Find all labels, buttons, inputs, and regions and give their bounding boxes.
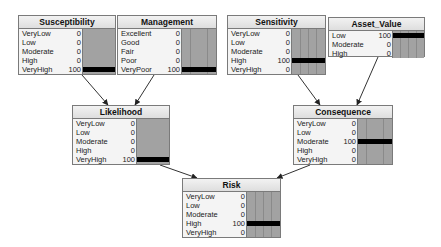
state-value: 100	[375, 31, 392, 40]
node-management[interactable]: Management Excellent 0 Good 0 Fair 0 Poo…	[117, 15, 217, 75]
state-label: Low	[19, 38, 65, 47]
state-value: 0	[229, 210, 246, 219]
state-value: 0	[274, 65, 291, 74]
state-row-high[interactable]: High 100	[183, 219, 280, 228]
state-label: Excellent	[118, 29, 164, 38]
state-row-low[interactable]: Low 100	[329, 31, 424, 40]
state-label: VeryHigh	[294, 155, 340, 164]
state-row-low[interactable]: Low 0	[19, 38, 115, 47]
state-label: VeryLow	[228, 29, 274, 38]
state-value: 0	[119, 128, 136, 137]
state-value: 0	[375, 40, 392, 49]
state-row-moderate[interactable]: Moderate 0	[228, 47, 325, 56]
state-value: 100	[229, 219, 246, 228]
state-row-low[interactable]: Low 0	[228, 38, 325, 47]
node-title: Consequence	[294, 106, 392, 119]
state-row-veryhigh[interactable]: VeryHigh 0	[294, 155, 392, 164]
state-row-high[interactable]: High 100	[228, 56, 325, 65]
state-row-verylow[interactable]: VeryLow 0	[294, 119, 392, 128]
state-value: 100	[65, 65, 82, 74]
state-label: High	[294, 146, 340, 155]
state-row-high[interactable]: High 0	[294, 146, 392, 155]
probability-bar	[291, 38, 325, 47]
state-label: Good	[118, 38, 164, 47]
edge-asset_value-to-consequence	[357, 57, 378, 105]
probability-bar	[136, 119, 169, 128]
state-row-low[interactable]: Low 0	[183, 201, 280, 210]
state-row-veryhigh[interactable]: VeryHigh 100	[73, 155, 169, 164]
state-value: 0	[119, 146, 136, 155]
state-row-good[interactable]: Good 0	[118, 38, 216, 47]
probability-bar	[392, 49, 424, 58]
node-states: VeryLow 0 Low 0 Moderate 0 High 0 VeryHi…	[19, 29, 115, 74]
probability-bar-fill	[247, 221, 280, 226]
state-value: 0	[65, 38, 82, 47]
state-row-veryhigh[interactable]: VeryHigh 0	[228, 65, 325, 74]
state-row-moderate[interactable]: Moderate 0	[73, 137, 169, 146]
probability-bar	[392, 31, 424, 40]
probability-bar-fill	[292, 58, 325, 63]
node-title: Sensitivity	[228, 16, 325, 29]
state-row-verylow[interactable]: VeryLow 0	[19, 29, 115, 38]
state-value: 0	[164, 47, 181, 56]
probability-bar	[136, 146, 169, 155]
node-consequence[interactable]: Consequence VeryLow 0 Low 0 Moderate 100…	[293, 105, 393, 165]
state-row-low[interactable]: Low 0	[294, 128, 392, 137]
state-row-moderate[interactable]: Moderate 0	[329, 40, 424, 49]
state-row-veryhigh[interactable]: VeryHigh 100	[19, 65, 115, 74]
state-row-high[interactable]: High 0	[73, 146, 169, 155]
state-value: 0	[65, 56, 82, 65]
state-label: Moderate	[19, 47, 65, 56]
probability-bar-fill	[83, 67, 115, 72]
state-row-moderate[interactable]: Moderate 0	[19, 47, 115, 56]
state-value: 100	[119, 155, 136, 164]
state-label: Moderate	[228, 47, 274, 56]
state-row-veryhigh[interactable]: VeryHigh 0	[183, 228, 280, 237]
state-label: High	[19, 56, 65, 65]
state-label: Fair	[118, 47, 164, 56]
node-susceptibility[interactable]: Susceptibility VeryLow 0 Low 0 Moderate …	[18, 15, 116, 75]
node-title: Susceptibility	[19, 16, 115, 29]
state-label: Low	[329, 31, 375, 40]
node-title: Management	[118, 16, 216, 29]
state-row-moderate[interactable]: Moderate 100	[294, 137, 392, 146]
node-risk[interactable]: Risk VeryLow 0 Low 0 Moderate 0 High 100…	[182, 178, 281, 238]
state-value: 0	[229, 201, 246, 210]
node-asset-value[interactable]: Asset_Value Low 100 Moderate 0 High 0	[328, 17, 425, 57]
state-row-low[interactable]: Low 0	[73, 128, 169, 137]
state-row-moderate[interactable]: Moderate 0	[183, 210, 280, 219]
state-row-high[interactable]: High 0	[329, 49, 424, 58]
node-states: VeryLow 0 Low 0 Moderate 100 High 0 Very…	[294, 119, 392, 164]
edge-susceptibility-to-likelihood	[82, 75, 108, 105]
state-value: 100	[164, 65, 181, 74]
probability-bar-fill	[182, 67, 216, 72]
state-value: 0	[274, 29, 291, 38]
state-label: VeryHigh	[73, 155, 119, 164]
node-states: VeryLow 0 Low 0 Moderate 0 High 0 VeryHi…	[73, 119, 169, 164]
probability-bar	[82, 38, 115, 47]
node-likelihood[interactable]: Likelihood VeryLow 0 Low 0 Moderate 0 Hi…	[72, 105, 170, 165]
state-value: 0	[119, 137, 136, 146]
state-row-verylow[interactable]: VeryLow 0	[73, 119, 169, 128]
state-row-fair[interactable]: Fair 0	[118, 47, 216, 56]
state-label: Poor	[118, 56, 164, 65]
state-row-high[interactable]: High 0	[19, 56, 115, 65]
node-states: Excellent 0 Good 0 Fair 0 Poor 0 VeryPoo…	[118, 29, 216, 74]
state-row-verylow[interactable]: VeryLow 0	[183, 192, 280, 201]
state-label: Moderate	[73, 137, 119, 146]
state-row-excellent[interactable]: Excellent 0	[118, 29, 216, 38]
node-states: VeryLow 0 Low 0 Moderate 0 High 100 Very…	[228, 29, 325, 74]
state-value: 0	[340, 128, 357, 137]
state-row-poor[interactable]: Poor 0	[118, 56, 216, 65]
node-sensitivity[interactable]: Sensitivity VeryLow 0 Low 0 Moderate 0 H…	[227, 15, 326, 75]
state-label: Low	[294, 128, 340, 137]
state-row-verypoor[interactable]: VeryPoor 100	[118, 65, 216, 74]
edge-likelihood-to-risk	[160, 165, 197, 178]
state-label: Moderate	[294, 137, 340, 146]
probability-bar-fill	[393, 33, 424, 38]
probability-bar	[181, 56, 216, 65]
probability-bar	[181, 47, 216, 56]
probability-bar	[291, 65, 325, 74]
state-row-verylow[interactable]: VeryLow 0	[228, 29, 325, 38]
probability-bar	[246, 210, 280, 219]
